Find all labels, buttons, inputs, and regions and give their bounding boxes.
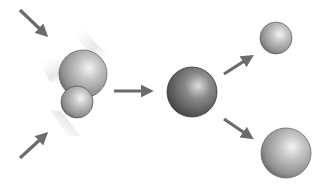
collision-diagram — [0, 0, 324, 188]
particle-compound — [167, 67, 217, 117]
arrow-icon-incoming-top — [20, 10, 44, 33]
particle-outgoing-large — [261, 128, 311, 178]
arrow-icon-decay-up — [224, 58, 249, 74]
particle-outgoing-small — [260, 22, 292, 54]
particle-incoming-small — [61, 86, 93, 118]
arrow-icon-incoming-bottom — [20, 136, 44, 158]
arrow-icon-decay-down — [224, 119, 249, 136]
